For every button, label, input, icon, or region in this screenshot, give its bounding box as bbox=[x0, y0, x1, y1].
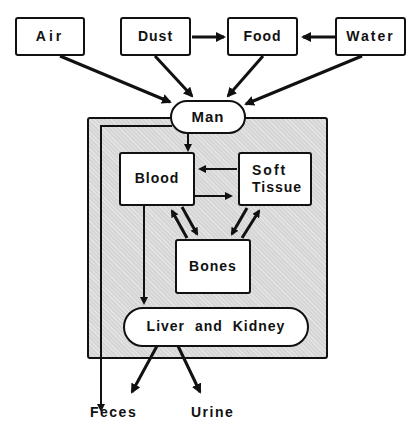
arrow-air-man bbox=[60, 56, 170, 102]
source-dust-label: Dust bbox=[138, 28, 173, 46]
source-dust: Dust bbox=[120, 17, 191, 56]
node-liver-kidney-label: Liver and Kidney bbox=[147, 318, 286, 336]
node-soft-tissue: Soft Tissue bbox=[238, 152, 312, 206]
source-air: Air bbox=[15, 17, 85, 56]
node-liver-kidney: Liver and Kidney bbox=[123, 307, 309, 347]
node-soft-tissue-line1: Soft bbox=[252, 162, 287, 180]
arrow-food-man bbox=[228, 56, 263, 96]
arrow-liver-feces bbox=[132, 346, 157, 392]
node-bones-label: Bones bbox=[189, 258, 237, 276]
node-man: Man bbox=[170, 100, 246, 134]
arrows-layer bbox=[0, 0, 418, 429]
node-bones: Bones bbox=[175, 239, 251, 294]
node-soft-tissue-line2: Tissue bbox=[252, 179, 302, 197]
output-urine: Urine bbox=[191, 404, 234, 420]
arrow-blood-bones bbox=[182, 207, 197, 234]
source-food: Food bbox=[227, 17, 298, 56]
arrow-softtissue-bones bbox=[232, 208, 247, 234]
arrow-bones-blood bbox=[172, 211, 187, 238]
arrow-liver-urine bbox=[178, 346, 200, 392]
source-water-label: Water bbox=[346, 28, 394, 46]
source-water: Water bbox=[335, 17, 406, 56]
arrow-water-man bbox=[246, 56, 362, 104]
node-blood-label: Blood bbox=[135, 170, 180, 188]
source-air-label: Air bbox=[36, 28, 64, 46]
output-feces: Feces bbox=[90, 404, 137, 420]
node-blood: Blood bbox=[119, 152, 195, 206]
arrow-dust-man bbox=[155, 56, 192, 96]
node-man-label: Man bbox=[192, 108, 225, 127]
source-food-label: Food bbox=[243, 28, 281, 46]
